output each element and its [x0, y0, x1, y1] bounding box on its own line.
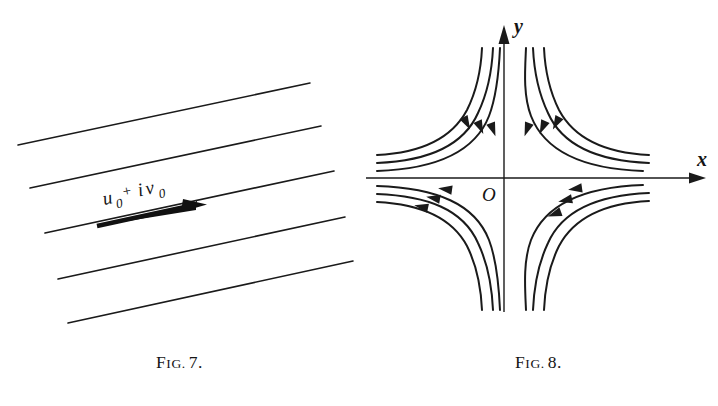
figure-8-caption-capital: F — [515, 352, 525, 372]
x-axis-arrowhead — [689, 173, 706, 184]
streamline-ll-3 — [377, 202, 482, 310]
figure-8-caption: FIG.8. — [359, 352, 718, 373]
streamline-ll-2 — [377, 194, 493, 310]
streamline-ur-2 — [533, 48, 649, 163]
vector-label-v-subscript: 0 — [157, 185, 167, 201]
figure-7-caption-rest: IG. — [166, 356, 185, 371]
vector-label-u: u — [100, 186, 114, 209]
streamlines-quadrant-upper-right — [525, 48, 649, 171]
streamline-lr-3 — [544, 201, 649, 310]
arrowheads-quadrant-lower-right — [546, 183, 582, 220]
arrowhead-ll-1 — [437, 184, 452, 195]
velocity-vector-arrow — [97, 199, 207, 226]
x-axis-label: x — [696, 148, 707, 170]
arrowhead-ur-1 — [520, 121, 533, 137]
arrowhead-ll-3 — [413, 201, 429, 213]
figure-8-drawing: y x O — [359, 0, 718, 360]
figure-7-caption-number: 7. — [186, 352, 203, 372]
velocity-vector-label: u 0 + i v 0 — [100, 174, 167, 214]
origin-label: O — [482, 184, 496, 205]
figure-7-caption-capital: F — [156, 352, 166, 372]
streamline-ul-1 — [377, 48, 482, 155]
streamline-1 — [18, 83, 310, 145]
figure-7-drawing: u 0 + i v 0 — [0, 0, 359, 360]
streamlines-quadrant-lower-right — [525, 185, 649, 310]
coordinate-axes — [366, 25, 706, 312]
y-axis-arrowhead — [499, 25, 510, 44]
figure-7-caption: FIG.7. — [0, 352, 359, 373]
figure-8-caption-rest: IG. — [525, 356, 544, 371]
figure-8-panel: y x O FIG.8. — [359, 0, 718, 406]
vector-label-v: v — [143, 176, 156, 198]
streamline-lr-2 — [533, 193, 649, 310]
streamline-2 — [30, 126, 321, 188]
streamline-ul-2 — [377, 48, 493, 163]
arrowhead-lr-1 — [567, 183, 582, 194]
y-axis-label: y — [512, 15, 523, 38]
streamlines-quadrant-upper-left — [377, 48, 500, 171]
figure-page: u 0 + i v 0 FIG.7. — [0, 0, 718, 406]
streamline-5 — [68, 261, 353, 323]
arrowhead-ul-3 — [486, 121, 499, 137]
figure-8-caption-number: 8. — [545, 352, 562, 372]
vector-label-plus: + — [121, 182, 133, 199]
streamline-ur-3 — [544, 48, 649, 155]
figure-7-panel: u 0 + i v 0 FIG.7. — [0, 0, 359, 406]
